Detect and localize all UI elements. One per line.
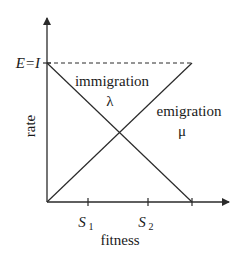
x-axis-label: fitness: [100, 232, 139, 248]
svg-text:2: 2: [149, 221, 154, 232]
emigration-symbol: μ: [178, 123, 186, 139]
migration-diagram: E=I rate immigration λ emigration μ S 1 …: [0, 0, 237, 254]
svg-text:S: S: [138, 214, 146, 230]
immigration-label: immigration: [75, 73, 150, 89]
svg-text:S: S: [78, 214, 86, 230]
y-axis-label: rate: [22, 114, 38, 137]
svg-text:1: 1: [89, 221, 94, 232]
x-tick-label-s2: S 2: [138, 214, 153, 232]
emigration-label: emigration: [157, 103, 222, 119]
y-level-label: E=I: [15, 55, 41, 71]
x-tick-label-s1: S 1: [78, 214, 93, 232]
immigration-symbol: λ: [106, 93, 114, 109]
